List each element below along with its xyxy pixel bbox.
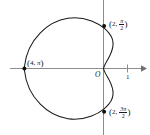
origin-label: O <box>95 71 100 79</box>
label-point-4-pi: (4, π) <box>27 59 44 68</box>
axis-arrow-icon <box>141 65 147 72</box>
label-close-paren: ) <box>125 20 128 29</box>
polar-graph-figure: (4, π) (2, π2) (2, 3π2) O 1 <box>0 0 150 135</box>
marked-point-2-pi-over-2 <box>102 24 106 28</box>
fraction-denominator: 2 <box>119 113 127 119</box>
fraction-3pi-over-2: 3π2 <box>119 106 127 120</box>
label-point-2-3pi-over-2: (2, 3π2) <box>109 106 131 120</box>
fraction-numerator: π <box>119 18 124 25</box>
x-tick-label-1: 1 <box>126 74 130 81</box>
label-close-paren: ) <box>128 108 131 117</box>
marked-point-2-3pi-over-2 <box>102 110 106 114</box>
fraction-numerator: 3π <box>119 106 127 113</box>
fraction-denominator: 2 <box>119 25 124 31</box>
label-point-2-pi-over-2: (2, π2) <box>109 18 128 32</box>
fraction-pi-over-2: π2 <box>119 18 124 32</box>
label-close-paren: ) <box>41 59 44 68</box>
marked-point-4-pi <box>22 67 26 71</box>
